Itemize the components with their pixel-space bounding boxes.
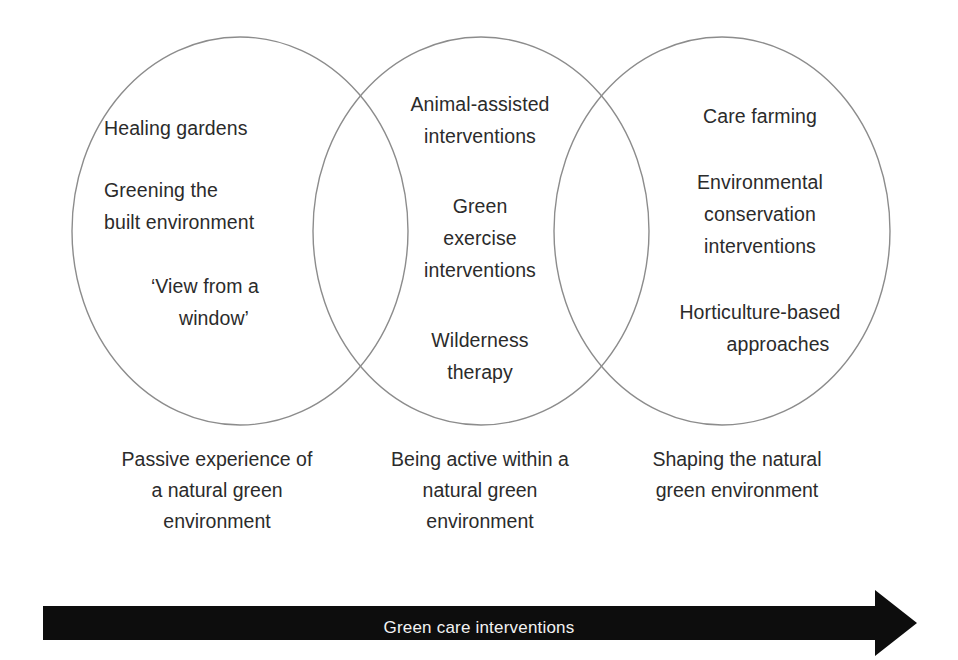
venn-diagram: Healing gardens Greening the built envir… (0, 0, 958, 660)
item-line: interventions (374, 254, 586, 286)
item-line: exercise (374, 222, 586, 254)
item-line: conservation (626, 198, 894, 230)
item-line: Wilderness (374, 324, 586, 356)
item-view-from-a-window: ‘View from a window’ (88, 270, 340, 334)
item-environmental-conservation-interventions: Environmental conservation interventions (626, 166, 894, 262)
item-line: interventions (374, 120, 586, 152)
item-line: ‘View from a (88, 270, 340, 302)
circle-active-content: Animal-assisted interventions Green exer… (374, 88, 586, 388)
caption-line: Shaping the natural (612, 444, 862, 475)
item-line: Healing gardens (88, 112, 340, 144)
item-line: built environment (88, 206, 340, 238)
caption-line: Being active within a (360, 444, 600, 475)
item-line: Greening the (88, 174, 340, 206)
item-line: Horticulture-based (626, 296, 894, 328)
caption-line: natural green (360, 475, 600, 506)
caption-passive: Passive experience of a natural green en… (92, 444, 342, 537)
item-care-farming: Care farming (626, 100, 894, 132)
item-green-exercise-interventions: Green exercise interventions (374, 190, 586, 286)
caption-line: Passive experience of (92, 444, 342, 475)
caption-line: a natural green (92, 475, 342, 506)
caption-active: Being active within a natural green envi… (360, 444, 600, 537)
caption-line: environment (360, 506, 600, 537)
circle-shaping-content: Care farming Environmental conservation … (626, 100, 894, 360)
arrow-label: Green care interventions (0, 618, 958, 638)
item-greening-built-environment: Greening the built environment (88, 174, 340, 238)
item-healing-gardens: Healing gardens (88, 112, 340, 144)
item-line: Animal-assisted (374, 88, 586, 120)
item-line: therapy (374, 356, 586, 388)
item-line: approaches (626, 328, 894, 360)
caption-shaping: Shaping the natural green environment (612, 444, 862, 506)
item-horticulture-based-approaches: Horticulture-based approaches (626, 296, 894, 360)
item-line: Environmental (626, 166, 894, 198)
item-wilderness-therapy: Wilderness therapy (374, 324, 586, 388)
caption-line: environment (92, 506, 342, 537)
item-line: interventions (626, 230, 894, 262)
item-line: Green (374, 190, 586, 222)
caption-line: green environment (612, 475, 862, 506)
item-animal-assisted-interventions: Animal-assisted interventions (374, 88, 586, 152)
item-line: Care farming (626, 100, 894, 132)
circle-passive-content: Healing gardens Greening the built envir… (88, 112, 340, 334)
item-line: window’ (88, 302, 340, 334)
